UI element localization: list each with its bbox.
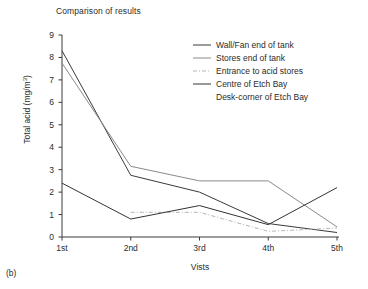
legend-item[interactable]: Entrance to acid stores: [193, 64, 308, 77]
panel-caption: (b): [6, 268, 16, 278]
plot-area: [0, 0, 368, 289]
chart-legend: Wall/Fan end of tankStores end of tankEn…: [193, 38, 308, 103]
legend-label: Desk-corner of Etch Bay: [216, 92, 308, 102]
legend-swatch-icon: [193, 40, 211, 50]
legend-label: Entrance to acid stores: [216, 66, 303, 76]
series-line-3: [62, 183, 337, 225]
legend-swatch-icon: [193, 92, 211, 102]
legend-swatch-icon: [193, 79, 211, 89]
legend-label: Centre of Etch Bay: [216, 79, 287, 89]
legend-item[interactable]: Wall/Fan end of tank: [193, 38, 308, 51]
legend-label: Wall/Fan end of tank: [216, 40, 294, 50]
legend-item[interactable]: Stores end of tank: [193, 51, 308, 64]
figure-panel: Comparison of results Total acid (mg/m3)…: [0, 0, 368, 289]
legend-item[interactable]: Centre of Etch Bay: [193, 77, 308, 90]
legend-item[interactable]: Desk-corner of Etch Bay: [193, 90, 308, 103]
legend-label: Stores end of tank: [216, 53, 285, 63]
legend-swatch-icon: [193, 66, 211, 76]
legend-swatch-icon: [193, 53, 211, 63]
